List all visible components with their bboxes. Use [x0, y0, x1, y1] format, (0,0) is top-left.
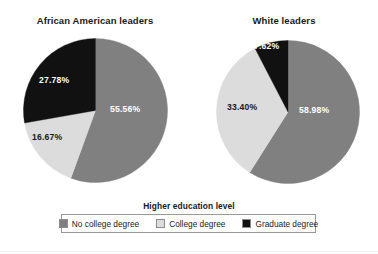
slice-label-aa-college-degree: 16.67% — [32, 132, 62, 142]
legend-label-college-degree: College degree — [169, 219, 225, 229]
slice-label-aa-graduate-degree: 27.78% — [39, 75, 69, 85]
legend-item-no-college-degree: No college degree — [59, 219, 139, 229]
figure-bottom-border — [0, 251, 378, 252]
legend-label-graduate-degree: Graduate degree — [255, 219, 318, 229]
pie-chart-white-leaders — [215, 39, 361, 185]
legend-title: Higher education level — [0, 201, 378, 211]
legend-box: No college degree College degree Graduat… — [61, 214, 316, 233]
pie-chart-figure: African American leaders White leaders 5… — [0, 0, 378, 254]
pie-svg-right — [215, 39, 361, 185]
pie-svg-left — [22, 37, 169, 184]
legend-item-college-degree: College degree — [156, 219, 225, 229]
legend-swatch-college-degree — [156, 219, 165, 228]
slice-label-white-no-college-degree: 58.98% — [299, 105, 329, 115]
chart-title-white-leaders: White leaders — [190, 15, 378, 26]
legend-item-graduate-degree: Graduate degree — [242, 219, 318, 229]
legend-label-no-college-degree: No college degree — [72, 219, 139, 229]
slice-label-white-college-degree: 33.40% — [227, 102, 257, 112]
legend-swatch-no-college-degree — [59, 219, 68, 228]
pie-chart-african-american-leaders — [22, 37, 169, 184]
chart-title-african-american-leaders: African American leaders — [0, 15, 190, 26]
slice-label-white-graduate-degree: 7.62% — [254, 41, 279, 51]
legend-swatch-graduate-degree — [242, 219, 251, 228]
slice-label-aa-no-college-degree: 55.56% — [110, 104, 140, 114]
